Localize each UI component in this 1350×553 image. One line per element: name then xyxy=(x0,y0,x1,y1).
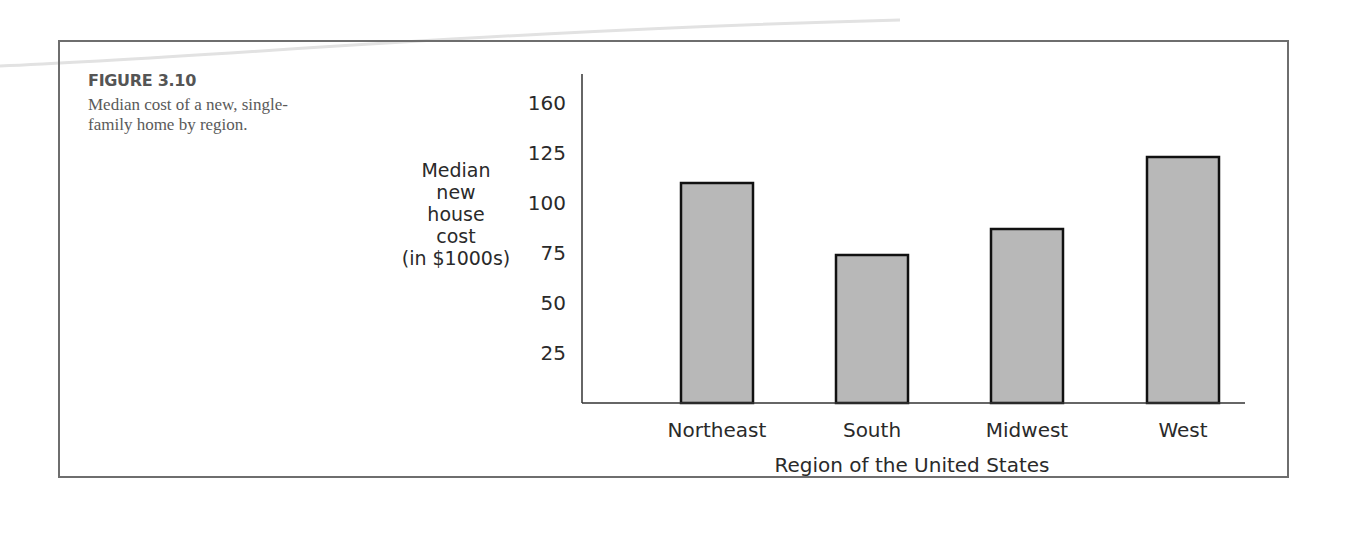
y-axis-title-line: cost xyxy=(436,225,475,247)
x-tick-label: Midwest xyxy=(986,418,1069,442)
x-axis-title: Region of the United States xyxy=(774,453,1049,477)
x-axis-ticks: NortheastSouthMidwestWest xyxy=(668,418,1208,442)
y-axis-title-line: Median xyxy=(421,159,490,181)
y-axis-title-line: new xyxy=(436,181,475,203)
y-axis-title-line: house xyxy=(427,203,484,225)
y-tick-label: 25 xyxy=(541,341,566,365)
y-axis-title: Mediannewhousecost(in $1000s) xyxy=(402,159,511,269)
bars xyxy=(681,157,1219,403)
bar-midwest xyxy=(991,229,1063,403)
bar-south xyxy=(836,255,908,403)
y-tick-label: 50 xyxy=(541,291,566,315)
x-tick-label: West xyxy=(1158,418,1207,442)
x-tick-label: South xyxy=(843,418,901,442)
y-tick-label: 100 xyxy=(528,191,566,215)
x-tick-label: Northeast xyxy=(668,418,767,442)
bar-chart: Mediannewhousecost(in $1000s) 2550751001… xyxy=(0,0,1350,553)
bar-northeast xyxy=(681,183,753,403)
y-axis-title-line: (in $1000s) xyxy=(402,247,511,269)
y-axis-ticks: 255075100125160 xyxy=(528,91,566,365)
y-tick-label: 125 xyxy=(528,141,566,165)
bar-west xyxy=(1147,157,1219,403)
y-tick-label: 160 xyxy=(528,91,566,115)
y-tick-label: 75 xyxy=(541,241,566,265)
